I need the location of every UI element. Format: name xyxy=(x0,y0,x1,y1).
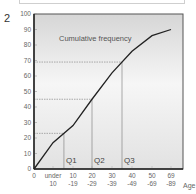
x-tick-label: -19 xyxy=(68,180,78,187)
x-tick-label: -29 xyxy=(87,180,97,187)
quartile-label-q3: Q3 xyxy=(124,156,135,165)
y-tick-label: 30 xyxy=(24,119,32,126)
x-tick-label: 69 xyxy=(167,172,175,179)
x-tick-label: 0 xyxy=(32,172,36,179)
x-tick-label: 20 xyxy=(88,172,96,179)
x-tick-label: 50 xyxy=(148,172,156,179)
x-tick-label: 30 xyxy=(108,172,116,179)
y-tick-label: 60 xyxy=(24,72,32,79)
x-tick-label: -39 xyxy=(107,180,117,187)
x-tick-label: 40 xyxy=(128,172,136,179)
x-tick-label: 10 xyxy=(49,180,57,187)
y-tick-label: 10 xyxy=(24,150,32,157)
y-tick-label: 0 xyxy=(27,165,31,172)
x-tick-label: 10 xyxy=(69,172,77,179)
x-tick-label: -49 xyxy=(127,180,137,187)
y-tick-label: 80 xyxy=(24,41,32,48)
x-axis-label: Age xyxy=(183,182,196,190)
quartile-label-q2: Q2 xyxy=(94,156,105,165)
x-tick-label: -89 xyxy=(166,180,176,187)
y-tick-label: 90 xyxy=(24,26,32,33)
y-tick-label: 100 xyxy=(20,10,31,17)
y-tick-label: 40 xyxy=(24,103,32,110)
chart-title: Cumulative frequency xyxy=(59,34,132,43)
x-tick-label: -69 xyxy=(147,180,157,187)
quartile-label-q1: Q1 xyxy=(66,156,77,165)
y-tick-label: 50 xyxy=(24,88,32,95)
cumulative-frequency-chart: 0102030405060708090100 0under1010-1920-2… xyxy=(0,0,196,194)
y-tick-label: 20 xyxy=(24,134,32,141)
x-tick-label: under xyxy=(45,172,62,179)
y-tick-label: 70 xyxy=(24,57,32,64)
